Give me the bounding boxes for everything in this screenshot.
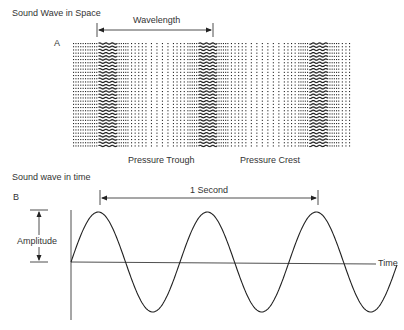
amplitude-label: Amplitude: [17, 236, 57, 246]
panel-b-letter: B: [13, 192, 19, 202]
period-label: 1 Second: [190, 185, 228, 195]
pressure-crest-label: Pressure Crest: [240, 155, 300, 165]
pressure-trough-label: Pressure Trough: [128, 155, 195, 165]
panel-b-title: Sound wave in time: [12, 172, 91, 182]
time-axis-label: Time: [378, 258, 398, 268]
panel-a-letter: A: [54, 38, 60, 48]
wavelength-label: Wavelength: [133, 15, 180, 25]
wavelength-arrow: [97, 23, 213, 37]
panel-a-title: Sound Wave in Space: [12, 8, 101, 18]
compression-dot-field: [73, 42, 350, 147]
sound-wave-diagram: [0, 0, 404, 330]
